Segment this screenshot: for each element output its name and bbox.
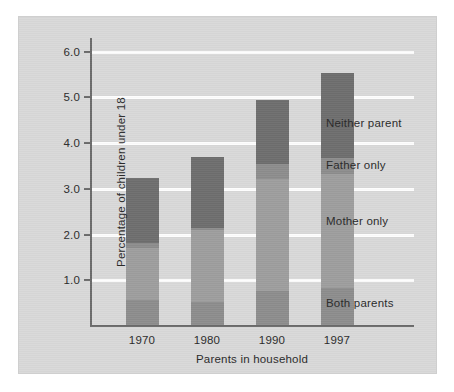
x-axis-tick-label: 1970 — [129, 334, 155, 346]
bar-1980 — [191, 157, 224, 325]
y-axis-tick-label: 3.0 — [63, 183, 80, 195]
bar-1970 — [126, 178, 159, 325]
bar-segment — [126, 178, 159, 243]
y-axis-tick-label: 4.0 — [63, 137, 80, 149]
y-axis-tick-mark — [84, 279, 92, 281]
x-axis-tick-label: 1997 — [324, 334, 350, 346]
y-axis-tick-label: 2.0 — [63, 229, 80, 241]
y-axis-tick-label: 5.0 — [63, 91, 80, 103]
x-axis-line — [90, 325, 414, 327]
series-label: Mother only — [326, 215, 388, 227]
bar-1990 — [256, 100, 289, 325]
bar-segment — [256, 164, 289, 179]
bar-segment — [191, 157, 224, 228]
x-axis-title: Parents in household — [90, 353, 414, 365]
gridline — [92, 142, 414, 145]
gridline — [92, 51, 414, 54]
x-axis-tick-label: 1990 — [259, 334, 285, 346]
figure-root: 1.02.03.04.05.06.0 1970198019901997 Neit… — [0, 0, 454, 392]
x-axis-tick-label: 1980 — [194, 334, 220, 346]
gridline — [92, 96, 414, 99]
series-label: Father only — [326, 159, 386, 171]
bar-segment — [191, 302, 224, 325]
series-label: Neither parent — [326, 117, 402, 129]
y-axis-tick-label: 6.0 — [63, 46, 80, 58]
chart-panel: 1.02.03.04.05.06.0 1970198019901997 Neit… — [19, 17, 436, 373]
bar-segment — [126, 248, 159, 300]
bar-segment — [256, 291, 289, 325]
y-axis-line — [90, 38, 92, 326]
bar-segment — [191, 230, 224, 302]
y-axis-tick-mark — [84, 51, 92, 53]
bar-1997 — [321, 73, 354, 325]
series-label: Both parents — [326, 297, 394, 309]
y-axis-tick-mark — [84, 142, 92, 144]
plot-area: 1.02.03.04.05.06.0 1970198019901997 Neit… — [90, 38, 414, 326]
y-axis-title: Percentage of children under 18 — [115, 67, 127, 297]
bar-segment — [126, 300, 159, 325]
bar-segment — [321, 73, 354, 158]
bar-segment — [321, 174, 354, 287]
y-axis-tick-mark — [84, 234, 92, 236]
y-axis-tick-mark — [84, 188, 92, 190]
y-axis-tick-label: 1.0 — [63, 274, 80, 286]
bar-segment — [256, 179, 289, 291]
y-axis-tick-mark — [84, 96, 92, 98]
bar-segment — [256, 100, 289, 164]
